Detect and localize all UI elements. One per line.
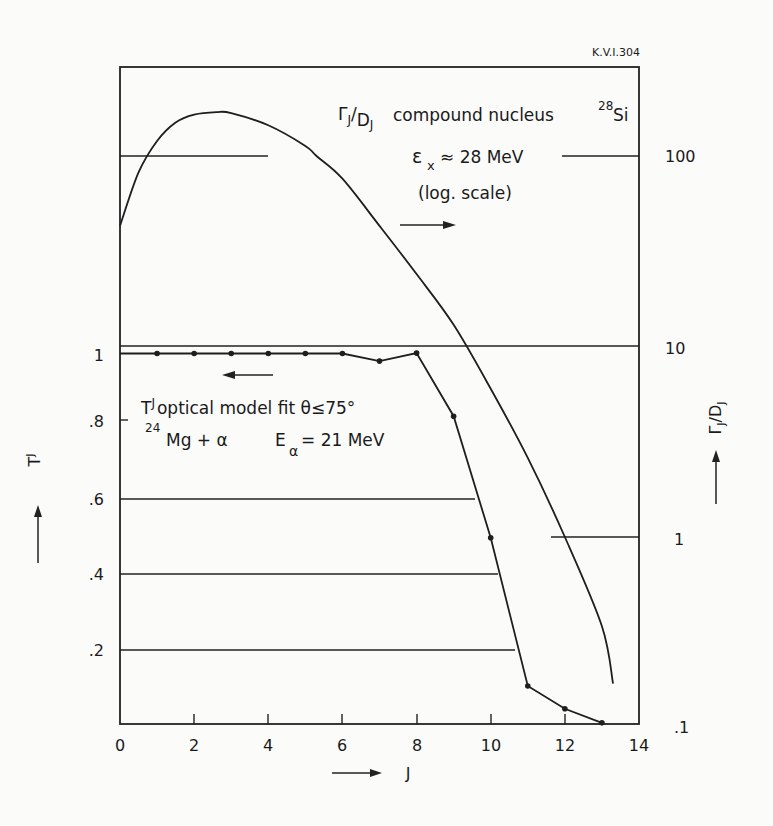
tj-data-point [265, 351, 271, 357]
svg-text:14: 14 [629, 736, 649, 755]
y-left-tick-labels: 1 .8 .6 .4 .2 [89, 346, 104, 660]
svg-text:E: E [275, 430, 286, 450]
svg-text:12: 12 [555, 736, 575, 755]
tj-data-point [599, 720, 605, 726]
left-arrow-t-head [222, 371, 235, 379]
svg-text:TJoptical model fit θ≤75°: TJoptical model fit θ≤75° [140, 396, 355, 418]
svg-text:ΓJ/DJ: ΓJ/DJ [338, 104, 373, 132]
svg-text:ε: ε [412, 145, 422, 167]
svg-text:compound nucleus: compound nucleus [393, 105, 554, 125]
svg-text:.6: .6 [89, 490, 104, 509]
gamma-annotation: ΓJ/DJ compound nucleus 28 Si ε x ≈ 28 Me… [338, 99, 629, 229]
svg-text:TJ: TJ [24, 453, 44, 467]
svg-text:.8: .8 [89, 412, 104, 431]
svg-text:.2: .2 [89, 641, 104, 660]
right-arrow-gamma-head [443, 221, 456, 229]
svg-text:1: 1 [674, 530, 684, 549]
svg-text:Mg + α: Mg + α [166, 430, 228, 450]
svg-text:.1: .1 [674, 718, 689, 737]
tj-data-point [228, 351, 234, 357]
svg-text:ΓJ/DJ: ΓJ/DJ [706, 401, 728, 434]
chart-figure: K.V.I.304 0 2 4 6 8 10 12 14 J 1 .8 .6 [0, 0, 773, 826]
svg-text:10: 10 [481, 736, 501, 755]
x-arrow-head [370, 769, 382, 777]
figure-id: K.V.I.304 [592, 46, 640, 59]
svg-text:Si: Si [613, 105, 629, 125]
svg-text:100: 100 [665, 147, 696, 166]
svg-text:24: 24 [145, 421, 160, 435]
svg-text:.4: .4 [89, 565, 104, 584]
tj-annotation: TJoptical model fit θ≤75° 24 Mg + α E α … [140, 371, 385, 459]
svg-text:(log. scale): (log. scale) [418, 183, 512, 203]
tj-data-point [488, 535, 494, 541]
y-right-tick-labels: 100 10 1 .1 [665, 147, 696, 737]
tj-data-point [154, 351, 160, 357]
svg-text:1: 1 [94, 346, 104, 365]
tj-data-point [525, 683, 531, 689]
svg-text:α: α [289, 443, 298, 459]
tj-data-point [303, 351, 309, 357]
y-left-arrow-head [34, 505, 42, 517]
tj-data-point [451, 413, 457, 419]
svg-text:= 21 MeV: = 21 MeV [301, 430, 385, 450]
x-axis-label: J [405, 764, 411, 783]
svg-text:0: 0 [115, 736, 125, 755]
plot-frame [120, 67, 639, 724]
tj-data-point [191, 351, 197, 357]
y-right-axis-label: ΓJ/DJ [706, 401, 728, 434]
svg-text:6: 6 [337, 736, 347, 755]
svg-text:2: 2 [189, 736, 199, 755]
x-tick-labels: 0 2 4 6 8 10 12 14 [115, 736, 649, 755]
x-ticks [194, 714, 565, 724]
svg-text:x: x [427, 158, 435, 173]
tj-data-point [414, 350, 420, 356]
y-right-arrow-head [712, 450, 720, 462]
tj-data-point [340, 351, 346, 357]
svg-text:≈ 28 MeV: ≈ 28 MeV [440, 147, 524, 167]
svg-text:10: 10 [665, 339, 685, 358]
svg-text:8: 8 [412, 736, 422, 755]
y-left-axis-label: TJ [24, 453, 44, 467]
svg-text:28: 28 [598, 99, 613, 113]
tj-data-point [377, 358, 383, 364]
svg-text:4: 4 [263, 736, 273, 755]
tj-data-point [562, 706, 568, 712]
